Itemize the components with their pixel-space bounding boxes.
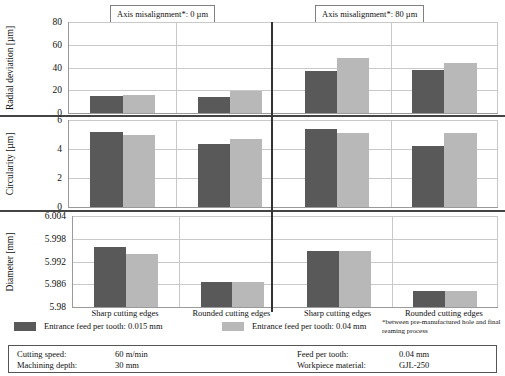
param-label-feed-per-tooth: Feed per tooth: xyxy=(297,349,348,360)
plot-area-radial-deviation xyxy=(68,22,498,114)
y-tick-label: 5.986 xyxy=(45,280,66,289)
legend-label-0.015: Entrance feed per tooth: 0.015 mm xyxy=(44,320,163,332)
y-ticks-circularity: 0246 xyxy=(18,120,64,208)
gridline xyxy=(69,45,498,46)
param-label-workpiece-material: Workpiece material: xyxy=(297,360,366,371)
bar-radial-deviation-3-1 xyxy=(444,63,476,113)
gridline xyxy=(69,120,498,121)
bar-circularity-3-0 xyxy=(412,146,444,207)
gridline xyxy=(69,22,498,23)
category-separator xyxy=(392,216,393,307)
bar-circularity-2-1 xyxy=(337,133,369,207)
category-separator xyxy=(176,120,177,207)
panel-separator-2 xyxy=(0,210,505,212)
category-label-2: Sharp cutting edges xyxy=(285,308,391,318)
gridline xyxy=(69,68,498,69)
bar-radial-deviation-3-0 xyxy=(412,70,444,113)
bar-diameter-1-1 xyxy=(232,282,264,307)
bar-diameter-2-0 xyxy=(307,251,339,307)
category-separator xyxy=(176,22,177,113)
category-separator xyxy=(391,22,392,113)
y-tick-label: 6.004 xyxy=(45,212,66,221)
category-label-0: Sharp cutting edges xyxy=(72,308,178,318)
y-tick-label: 5.998 xyxy=(45,234,66,243)
parameters-box: Cutting speed: 60 m/min Machining depth:… xyxy=(8,345,497,373)
y-ticks-diameter: 5.985.9865.9925.9986.004 xyxy=(12,216,68,308)
footnote: *between pre-manufactured hole and final… xyxy=(382,318,504,335)
y-tick-label: 80 xyxy=(53,18,63,27)
plot-right-border xyxy=(497,22,498,113)
bar-diameter-1-0 xyxy=(201,282,233,307)
axis-label-radial-deviation: Radial deviation [µm] xyxy=(2,22,18,114)
param-value-machining-depth: 30 mm xyxy=(115,360,139,371)
figure-root: Axis misalignment*: 0 µm Axis misalignme… xyxy=(0,0,505,376)
bar-circularity-3-1 xyxy=(444,133,476,207)
plot-area-diameter xyxy=(72,216,498,308)
param-value-workpiece-material: GJL-250 xyxy=(399,360,429,371)
bar-radial-deviation-2-0 xyxy=(305,71,337,113)
param-label-cutting-speed: Cutting speed: xyxy=(17,349,66,360)
panel-radial-deviation: Radial deviation [µm] 020406080 xyxy=(0,22,505,114)
category-separator xyxy=(391,120,392,207)
legend-swatch-light xyxy=(222,322,244,331)
bar-circularity-1-0 xyxy=(198,144,230,207)
bar-circularity-0-1 xyxy=(123,135,155,207)
category-label-1: Rounded cutting edges xyxy=(178,308,284,318)
legend-swatch-dark xyxy=(14,322,36,331)
bar-diameter-2-1 xyxy=(339,251,371,307)
bar-diameter-0-0 xyxy=(94,247,126,307)
category-label-3: Rounded cutting edges xyxy=(391,308,497,318)
panel-separator-1 xyxy=(0,115,505,117)
param-label-machining-depth: Machining depth: xyxy=(17,360,77,371)
plot-area-circularity xyxy=(68,120,498,208)
y-tick-label: 4 xyxy=(57,145,62,154)
panel-circularity: Circularity [µm] 0246 xyxy=(0,120,505,208)
axis-label-text: Circularity [µm] xyxy=(5,133,15,196)
bar-diameter-3-1 xyxy=(445,291,477,307)
panel-header-misalignment-0: Axis misalignment*: 0 µm xyxy=(110,5,215,23)
panel-header-misalignment-80: Axis misalignment*: 80 µm xyxy=(315,5,424,23)
gridline xyxy=(73,239,498,240)
bar-circularity-1-1 xyxy=(230,139,262,207)
legend: Entrance feed per tooth: 0.015 mm Entran… xyxy=(0,320,505,344)
bar-radial-deviation-2-1 xyxy=(337,58,369,113)
param-value-cutting-speed: 60 m/min xyxy=(115,349,148,360)
bar-radial-deviation-1-0 xyxy=(198,97,230,113)
param-value-feed-per-tooth: 0.04 mm xyxy=(399,349,429,360)
y-tick-label: 40 xyxy=(53,63,63,72)
plot-right-border xyxy=(497,216,498,307)
bar-radial-deviation-0-1 xyxy=(123,95,155,113)
category-separator xyxy=(179,216,180,307)
y-tick-label: 6 xyxy=(57,116,62,125)
misalignment-divider xyxy=(271,22,273,312)
legend-label-0.04: Entrance feed per tooth: 0.04 mm xyxy=(252,320,366,332)
bar-diameter-3-0 xyxy=(413,291,445,307)
y-ticks-radial-deviation: 020406080 xyxy=(18,22,64,114)
axis-label-text: Radial deviation [µm] xyxy=(5,26,15,110)
bar-circularity-2-0 xyxy=(305,129,337,207)
bar-radial-deviation-0-0 xyxy=(90,96,122,113)
y-tick-label: 20 xyxy=(53,86,63,95)
y-tick-label: 60 xyxy=(53,40,63,49)
plot-right-border xyxy=(497,120,498,207)
bar-circularity-0-0 xyxy=(90,132,122,207)
gridline xyxy=(73,216,498,217)
y-tick-label: 5.992 xyxy=(45,257,66,266)
panel-diameter: Diameter [mm] 5.985.9865.9925.9986.004 xyxy=(0,216,505,308)
bar-diameter-0-1 xyxy=(126,254,158,307)
axis-label-circularity: Circularity [µm] xyxy=(2,120,18,208)
y-tick-label: 2 xyxy=(57,174,62,183)
bar-radial-deviation-1-1 xyxy=(230,91,262,113)
